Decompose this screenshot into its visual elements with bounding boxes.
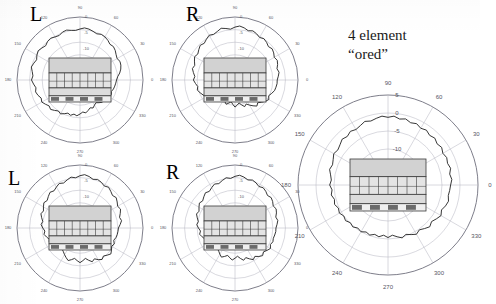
angular-tick-label: 90	[78, 153, 83, 158]
angular-tick-label: 210	[169, 113, 176, 118]
plot-bottom-left: 03060901201501802102402703003300-5-10	[0, 139, 169, 304]
radial-tick-label: 0	[240, 162, 243, 167]
radial-tick-label: -10	[238, 194, 245, 199]
plot-bottom-left-title: L	[8, 168, 20, 188]
angular-tick-label: 30	[473, 131, 480, 137]
angular-tick-label: 90	[78, 5, 83, 10]
radial-tick-labels: 50-5-10	[393, 92, 402, 152]
radial-tick-label: -10	[83, 194, 90, 199]
angular-tick-label: 120	[332, 94, 343, 100]
angular-tick-label: 150	[14, 189, 21, 194]
angular-tick-label: 270	[232, 297, 239, 302]
radial-tick-label: -10	[83, 46, 90, 51]
plot-right-large: 030609012015018021024027030033050-5-10	[272, 69, 496, 301]
angular-tick-label: 210	[14, 261, 21, 266]
angular-tick-label: 0	[488, 182, 492, 188]
radial-tick-labels: 0-5-10	[238, 14, 245, 51]
angular-tick-label: 150	[14, 41, 21, 46]
radial-tick-label: -5	[84, 30, 88, 35]
radial-tick-label: -5	[84, 178, 88, 183]
angular-tick-label: 90	[233, 153, 238, 158]
floorplan-schematic	[49, 206, 111, 250]
angular-tick-label: 180	[160, 77, 167, 82]
floorplan-schematic	[49, 58, 111, 102]
plot-top-left-title: L	[30, 4, 42, 24]
floorplan-schematic	[204, 58, 266, 102]
angular-tick-label: 60	[114, 163, 119, 168]
floorplan-schematic	[204, 206, 266, 250]
angular-tick-label: 90	[385, 80, 392, 86]
angular-tick-label: 150	[169, 41, 176, 46]
angular-tick-label: 210	[169, 261, 176, 266]
radial-tick-labels: 0-5-10	[83, 162, 90, 199]
angular-tick-label: 30	[140, 189, 145, 194]
radial-tick-labels: 0-5-10	[238, 162, 245, 199]
radial-tick-label: -5	[239, 178, 243, 183]
angular-tick-label: 180	[5, 225, 12, 230]
angular-tick-label: 240	[41, 288, 48, 293]
radial-tick-label: 5	[395, 92, 399, 98]
radial-tick-label: 0	[395, 110, 399, 116]
angular-tick-label: 180	[281, 182, 292, 188]
angular-tick-label: 300	[434, 270, 445, 276]
angular-tick-label: 180	[160, 225, 167, 230]
angular-tick-label: 240	[332, 270, 343, 276]
angular-tick-label: 150	[169, 189, 176, 194]
angular-tick-label: 270	[383, 284, 394, 290]
figure-annotation: 4 element “ored”	[348, 26, 407, 64]
annotation-line-1: 4 element	[348, 26, 407, 45]
radial-tick-label: -5	[394, 128, 400, 134]
angular-tick-label: 270	[77, 297, 84, 302]
angular-tick-label: 240	[196, 288, 203, 293]
angular-tick-label: 180	[5, 77, 12, 82]
radial-tick-label: -5	[239, 30, 243, 35]
angular-tick-label: 60	[436, 94, 443, 100]
radial-tick-label: 0	[85, 14, 88, 19]
angular-tick-label: 300	[113, 288, 120, 293]
angular-tick-label: 30	[295, 41, 300, 46]
radial-tick-label: 0	[240, 14, 243, 19]
plot-top-right-title: R	[186, 4, 199, 24]
angular-tick-label: 30	[140, 41, 145, 46]
plot-bottom-right-title: R	[166, 162, 179, 182]
angular-tick-label: 60	[114, 15, 119, 20]
radial-tick-label: 0	[85, 162, 88, 167]
floorplan-schematic	[350, 159, 426, 211]
angular-tick-label: 60	[269, 15, 274, 20]
angular-tick-label: 210	[295, 233, 306, 239]
radial-tick-labels: 0-5-10	[83, 14, 90, 51]
annotation-line-2: “ored”	[348, 45, 407, 64]
angular-tick-label: 210	[14, 113, 21, 118]
angular-tick-label: 150	[295, 131, 306, 137]
angular-tick-label: 120	[196, 163, 203, 168]
angular-tick-label: 120	[41, 163, 48, 168]
radial-tick-label: -10	[393, 146, 402, 152]
angular-tick-label: 90	[233, 5, 238, 10]
angular-tick-label: 330	[471, 233, 482, 239]
radial-tick-label: -10	[238, 46, 245, 51]
